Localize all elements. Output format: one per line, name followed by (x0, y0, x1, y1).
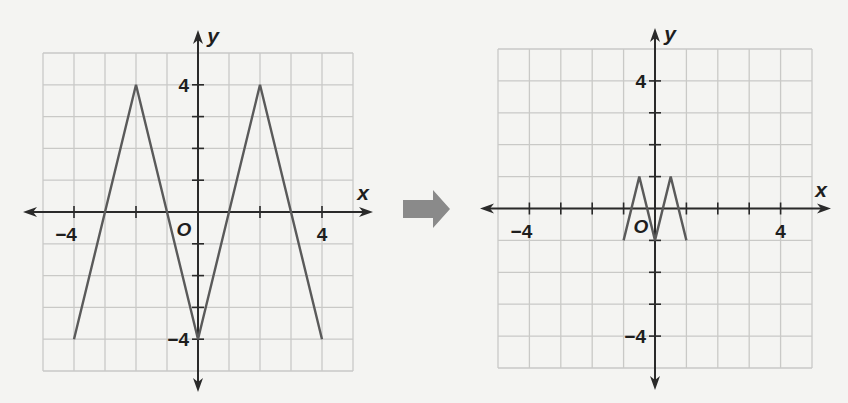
figure: −444−4xyO −444−4xyO (0, 0, 848, 403)
origin-label: O (634, 216, 649, 237)
y-tick-label: 4 (178, 75, 189, 96)
transformed-graph: −444−4xyO (480, 22, 831, 390)
x-axis-label: x (356, 181, 370, 204)
x-axis-label: x (814, 178, 828, 201)
original-graph: −444−4xyO (23, 24, 373, 392)
x-tick-label: 4 (317, 224, 328, 245)
y-axis-label: y (206, 24, 220, 47)
origin-label: O (177, 219, 192, 240)
y-tick-label: −4 (167, 329, 189, 350)
y-tick-label: −4 (624, 326, 646, 347)
x-tick-label: −4 (55, 224, 77, 245)
y-tick-label: 4 (635, 71, 646, 92)
x-tick-label: −4 (511, 221, 533, 242)
y-axis-label: y (663, 22, 677, 45)
transform-arrow-icon (403, 190, 450, 228)
x-tick-label: 4 (775, 221, 786, 242)
